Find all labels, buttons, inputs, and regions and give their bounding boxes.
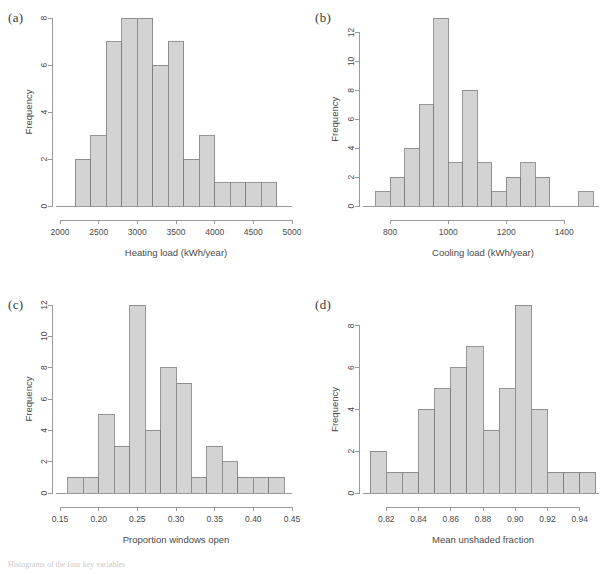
histogram-bar: [435, 389, 451, 493]
x-axis-title: Mean unshaded fraction: [432, 534, 534, 545]
caption-strip: Histograms of the four key variables: [0, 560, 615, 574]
histogram-bar: [199, 136, 214, 207]
x-tick-label: 3500: [167, 227, 186, 237]
histogram-bar: [253, 477, 268, 493]
x-tick-label: 1200: [497, 227, 516, 237]
y-tick-label: 4: [346, 407, 356, 412]
histogram-bar: [168, 42, 183, 207]
histogram-bar: [261, 183, 276, 207]
x-tick-label: 0.90: [507, 514, 524, 524]
y-tick-label: 0: [346, 203, 356, 208]
histogram-bar: [91, 136, 106, 207]
histogram-bar: [238, 477, 253, 493]
histogram-bar: [376, 192, 391, 206]
histogram-bar: [492, 192, 507, 206]
histogram-bar: [451, 368, 467, 493]
histogram-bar: [580, 472, 596, 493]
histogram-bar: [122, 18, 137, 206]
y-tick-label: 10: [39, 331, 49, 341]
panel-c: (c) 024681012Frequency0.150.200.250.300.…: [0, 287, 307, 574]
y-tick-label: 2: [346, 449, 356, 454]
histogram-bar: [531, 409, 547, 493]
y-tick-label: 8: [346, 88, 356, 93]
y-tick-label: 6: [39, 62, 49, 67]
histogram-bar: [184, 159, 199, 206]
y-axis-title: Frequency: [23, 89, 34, 134]
x-tick-label: 0.25: [129, 514, 146, 524]
histogram-bar: [191, 477, 206, 493]
y-tick-label: 8: [346, 323, 356, 328]
bars-group: [376, 18, 594, 206]
y-tick-label: 0: [346, 490, 356, 495]
x-tick-label: 0.94: [571, 514, 588, 524]
y-axis-title: Frequency: [330, 97, 341, 142]
bars-group: [370, 305, 596, 493]
histogram-bar: [114, 446, 129, 493]
histogram-bar: [434, 18, 449, 206]
x-tick-label: 0.45: [284, 514, 301, 524]
histogram-bar: [419, 105, 434, 206]
x-tick-label: 0.30: [168, 514, 185, 524]
y-tick-label: 0: [39, 490, 49, 495]
x-tick-label: 2000: [51, 227, 70, 237]
histogram-bar: [405, 148, 420, 206]
y-tick-label: 2: [39, 156, 49, 161]
histogram-bar: [145, 430, 160, 493]
histogram-bar: [521, 163, 536, 206]
histogram-bar: [99, 415, 114, 493]
x-tick-label: 0.92: [539, 514, 556, 524]
histogram-bar: [215, 183, 230, 207]
histogram-figure: (a) 02468Frequency2000250030003500400045…: [0, 0, 615, 574]
y-tick-label: 0: [39, 203, 49, 208]
histogram-bar: [137, 18, 152, 206]
panel-a: (a) 02468Frequency2000250030003500400045…: [0, 0, 307, 287]
panel-b: (b) 024681012Frequency800100012001400Coo…: [307, 0, 614, 287]
panel-c-plot: 024681012Frequency0.150.200.250.300.350.…: [0, 287, 307, 574]
histogram-bar: [83, 477, 98, 493]
x-tick-label: 0.82: [378, 514, 395, 524]
panel-d-plot: 02468Frequency0.820.840.860.880.900.920.…: [307, 287, 614, 574]
x-tick-label: 4000: [205, 227, 224, 237]
histogram-bar: [75, 159, 90, 206]
x-tick-label: 0.84: [410, 514, 427, 524]
x-tick-label: 1000: [439, 227, 458, 237]
histogram-bar: [386, 472, 402, 493]
x-tick-label: 0.20: [90, 514, 107, 524]
x-tick-label: 5000: [283, 227, 302, 237]
x-tick-label: 0.40: [245, 514, 262, 524]
y-tick-label: 6: [39, 396, 49, 401]
histogram-bar: [499, 389, 515, 493]
y-tick-label: 12: [346, 27, 356, 37]
x-axis-title: Proportion windows open: [123, 534, 230, 545]
x-tick-label: 800: [383, 227, 397, 237]
histogram-bar: [153, 65, 168, 206]
x-axis-line: [390, 220, 564, 224]
bars-group: [75, 18, 276, 206]
y-tick-label: 2: [39, 459, 49, 464]
y-tick-label: 6: [346, 365, 356, 370]
histogram-bar: [477, 163, 492, 206]
histogram-bar: [402, 472, 418, 493]
y-axis-title: Frequency: [330, 387, 341, 432]
histogram-bar: [419, 409, 435, 493]
histogram-bar: [207, 446, 222, 493]
panel-a-plot: 02468Frequency20002500300035004000450050…: [0, 0, 307, 287]
y-tick-label: 4: [346, 146, 356, 151]
histogram-bar: [579, 192, 594, 206]
histogram-bar: [161, 368, 176, 493]
y-tick-label: 10: [346, 56, 356, 66]
y-tick-label: 4: [39, 109, 49, 114]
panel-b-plot: 024681012Frequency800100012001400Cooling…: [307, 0, 614, 287]
histogram-bar: [370, 451, 386, 493]
histogram-bar: [68, 477, 83, 493]
histogram-bar: [506, 177, 521, 206]
histogram-bar: [463, 90, 478, 206]
x-tick-label: 3000: [128, 227, 147, 237]
x-tick-label: 0.35: [206, 514, 223, 524]
histogram-bar: [483, 430, 499, 493]
histogram-bar: [230, 183, 245, 207]
x-tick-label: 2500: [89, 227, 108, 237]
histogram-bar: [448, 163, 463, 206]
y-tick-label: 8: [39, 15, 49, 20]
x-tick-label: 0.15: [52, 514, 69, 524]
